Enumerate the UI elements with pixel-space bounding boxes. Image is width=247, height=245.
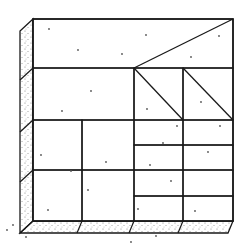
texture-dot [6, 229, 8, 231]
texture-dot [130, 241, 132, 243]
texture-dot [90, 90, 92, 92]
texture-dot [48, 28, 50, 30]
texture-dot [87, 189, 89, 191]
texture-dot [61, 110, 63, 112]
stone-panel-drawing [0, 0, 247, 245]
diagram-canvas [0, 0, 247, 245]
texture-dot [207, 151, 209, 153]
texture-dot [121, 53, 123, 55]
texture-dot [194, 210, 196, 212]
block-base-face [20, 221, 233, 233]
texture-dot [155, 235, 157, 237]
texture-dot [190, 56, 192, 58]
texture-dot [77, 49, 79, 51]
texture-dot [200, 101, 202, 103]
texture-dot [105, 161, 107, 163]
texture-dot [146, 108, 148, 110]
texture-dot [145, 34, 147, 36]
texture-dot [47, 209, 49, 211]
texture-dot [218, 35, 220, 37]
texture-dot [40, 154, 42, 156]
texture-dot [162, 142, 164, 144]
texture-dot [170, 180, 172, 182]
texture-dot [12, 224, 14, 226]
texture-dot [219, 125, 221, 127]
texture-dot [70, 170, 72, 172]
texture-dot [25, 236, 27, 238]
texture-dot [137, 208, 139, 210]
texture-dot [176, 125, 178, 127]
texture-dot [149, 164, 151, 166]
